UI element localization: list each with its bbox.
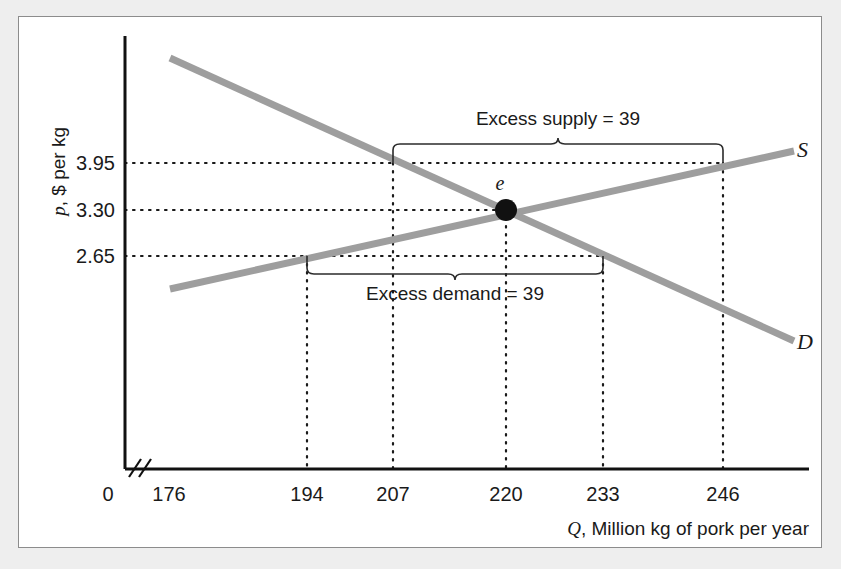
y-tick-label-330: 3.30 — [76, 199, 115, 221]
supply-demand-chart: S D e Excess supply = 39 Excess demand =… — [19, 17, 821, 547]
x-axis-title-symbol: Q — [567, 518, 581, 539]
excess-supply-annotation: Excess supply = 39 — [393, 108, 723, 163]
x-tick-label-220: 220 — [489, 483, 522, 505]
supply-curve — [170, 151, 794, 289]
y-axis-title-rest: , $ per kg — [48, 127, 69, 206]
y-tick-labels: 3.95 3.30 2.65 — [76, 152, 115, 267]
equilibrium-label: e — [496, 172, 505, 194]
supply-curve-label: S — [797, 137, 808, 162]
axes — [125, 36, 809, 477]
excess-demand-annotation: Excess demand = 39 — [307, 256, 603, 304]
y-axis-title: p, $ per kg — [48, 127, 69, 218]
excess-supply-label: Excess supply = 39 — [476, 108, 640, 129]
excess-demand-bracket — [307, 256, 603, 280]
excess-demand-label: Excess demand = 39 — [366, 283, 544, 304]
x-tick-label-0: 0 — [102, 483, 113, 505]
demand-curve-label: D — [796, 329, 813, 354]
x-tick-label-233: 233 — [586, 483, 619, 505]
x-tick-label-194: 194 — [290, 483, 323, 505]
x-tick-label-246: 246 — [706, 483, 739, 505]
y-tick-label-265: 2.65 — [76, 245, 115, 267]
x-tick-label-207: 207 — [376, 483, 409, 505]
figure-panel: S D e Excess supply = 39 Excess demand =… — [18, 16, 822, 548]
equilibrium-marker: e — [495, 172, 517, 221]
x-axis-title-rest: , Million kg of pork per year — [581, 518, 810, 539]
x-tick-labels: 0 176 194 207 220 233 246 — [102, 483, 739, 505]
x-tick-label-176: 176 — [152, 483, 185, 505]
figure-root: S D e Excess supply = 39 Excess demand =… — [0, 0, 841, 569]
y-axis-title-symbol: p — [48, 206, 69, 218]
excess-supply-bracket — [393, 138, 723, 163]
x-axis-title: Q, Million kg of pork per year — [567, 518, 810, 539]
y-tick-label-395: 3.95 — [76, 152, 115, 174]
equilibrium-dot — [495, 199, 517, 221]
